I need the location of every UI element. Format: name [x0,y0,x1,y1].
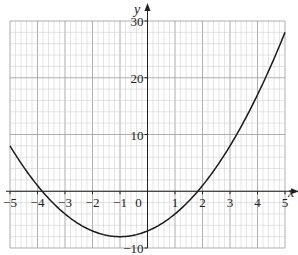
x-tick-label: 3 [227,195,234,210]
x-tick-label: 1 [172,195,179,210]
x-tick-label: −5 [3,195,17,210]
chart: −5−4−3−2−1012345−10102030 x y [0,0,298,255]
y-axis-label: y [132,2,141,17]
x-tick-label: −2 [86,195,100,210]
axes [6,3,298,248]
y-axis-arrow-icon [145,3,151,11]
y-tick-label: 20 [131,71,144,86]
x-tick-label: 4 [254,195,261,210]
x-tick-label: −3 [58,195,72,210]
y-tick-label: −10 [123,241,143,255]
x-tick-label: −4 [31,195,45,210]
x-tick-label: 0 [135,195,142,210]
y-tick-label: 10 [131,128,144,143]
x-tick-label: −1 [113,195,127,210]
x-axis-label: x [287,185,295,200]
x-tick-label: 2 [199,195,206,210]
